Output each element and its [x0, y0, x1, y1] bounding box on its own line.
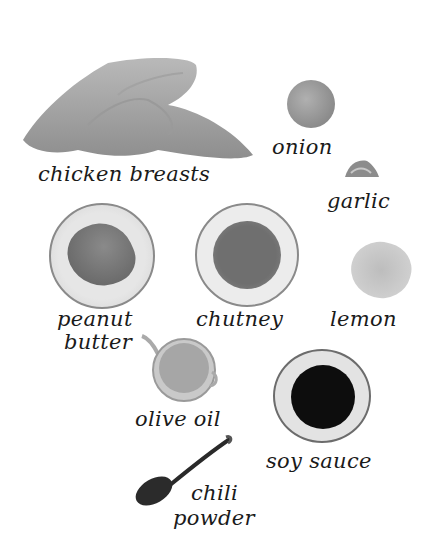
chutney-bowl-icon: [195, 203, 299, 307]
label-soy-sauce: soy sauce: [266, 450, 372, 472]
label-peanut-butter-line2: butter: [64, 331, 132, 353]
label-peanut-butter-line1: peanut: [57, 308, 133, 330]
chicken-breasts-icon: [18, 55, 258, 165]
lemon-icon: [345, 235, 417, 305]
label-garlic: garlic: [327, 190, 390, 212]
label-olive-oil: olive oil: [135, 408, 221, 430]
garlic-icon: [343, 157, 381, 179]
label-onion: onion: [272, 136, 333, 158]
label-chicken-breasts: chicken breasts: [38, 163, 210, 185]
label-chutney: chutney: [196, 308, 283, 330]
onion-icon: [287, 80, 335, 128]
olive-oil-jug-icon: [138, 332, 222, 404]
peanut-butter-bowl-icon: [49, 203, 155, 309]
label-chili-powder-line2: powder: [173, 507, 255, 529]
label-chili-powder-line1: chili: [191, 482, 238, 504]
soy-sauce-dish-icon: [273, 349, 371, 443]
label-lemon: lemon: [330, 308, 397, 330]
